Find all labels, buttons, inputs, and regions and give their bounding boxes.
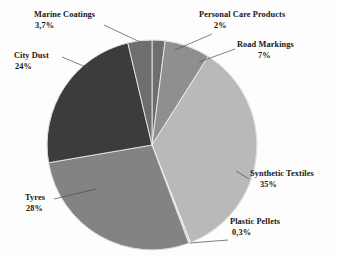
pie-label-tyres-value: 28% [25, 204, 45, 215]
pie-chart-canvas [0, 0, 338, 257]
pie-label-road-markings: Road Markings 7% [237, 40, 294, 61]
pie-label-marine-coatings: Marine Coatings 3,7% [34, 10, 95, 31]
pie-label-marine-coatings-name: Marine Coatings [34, 10, 95, 21]
pie-chart-figure: Marine Coatings 3,7% City Dust 24% Tyres… [0, 0, 338, 257]
pie-label-plastic-pellets: Plastic Pellets 0,3% [230, 217, 280, 238]
pie-label-city-dust-value: 24% [14, 62, 49, 73]
pie-label-road-markings-value: 7% [237, 51, 294, 62]
pie-label-tyres: Tyres 28% [25, 193, 45, 214]
pie-label-tyres-name: Tyres [25, 193, 45, 204]
pie-label-personal-care-products-name: Personal Care Products [199, 10, 285, 21]
pie-slices [47, 40, 257, 250]
pie-label-city-dust-name: City Dust [14, 51, 49, 62]
pie-label-synthetic-textiles-name: Synthetic Textiles [250, 169, 314, 180]
pie-label-personal-care-products-value: 2% [199, 21, 285, 32]
pie-label-plastic-pellets-value: 0,3% [230, 228, 280, 239]
pie-label-plastic-pellets-name: Plastic Pellets [230, 217, 280, 228]
leader-line-personal-care-products [175, 34, 212, 50]
leader-line-marine-coatings [104, 25, 140, 42]
pie-label-marine-coatings-value: 3,7% [34, 21, 95, 32]
pie-label-road-markings-name: Road Markings [237, 40, 294, 51]
pie-label-city-dust: City Dust 24% [14, 51, 49, 72]
pie-label-synthetic-textiles: Synthetic Textiles 35% [250, 169, 314, 190]
pie-label-personal-care-products: Personal Care Products 2% [199, 10, 285, 31]
pie-label-synthetic-textiles-value: 35% [250, 180, 314, 191]
